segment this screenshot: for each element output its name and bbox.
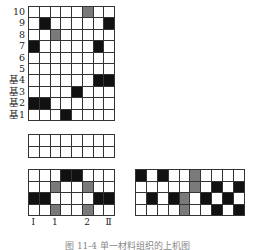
cell-empty	[94, 18, 105, 29]
cell-empty	[83, 41, 94, 52]
cell-filled-black	[104, 18, 115, 29]
cell-empty	[29, 110, 40, 121]
cell-empty	[201, 182, 212, 194]
cell-empty	[94, 53, 105, 64]
middle-grid-empty	[28, 134, 115, 158]
cell-empty	[94, 98, 105, 109]
cell-empty	[147, 205, 158, 217]
cell-empty	[104, 147, 115, 159]
cell-filled-black	[40, 193, 51, 205]
cell-empty	[40, 110, 51, 121]
cell-empty	[29, 170, 40, 182]
row-label: 基1	[0, 109, 27, 120]
cell-empty	[61, 41, 72, 52]
cell-empty	[29, 30, 40, 41]
cell-empty	[40, 170, 51, 182]
column-label: Ⅱ	[103, 216, 114, 228]
cell-empty	[158, 193, 169, 205]
cell-filled-black	[40, 18, 51, 29]
cell-empty	[72, 193, 83, 205]
cell-empty	[61, 147, 72, 159]
cell-empty	[51, 193, 62, 205]
cell-empty	[169, 170, 180, 182]
cell-filled-black	[223, 193, 234, 205]
cell-empty	[40, 41, 51, 52]
cell-empty	[190, 205, 201, 217]
cell-empty	[51, 135, 62, 147]
cell-empty	[72, 147, 83, 159]
cell-filled-black	[212, 205, 223, 217]
cell-empty	[40, 30, 51, 41]
cell-empty	[61, 182, 72, 194]
cell-filled-black	[61, 110, 72, 121]
cell-empty	[51, 110, 62, 121]
cell-empty	[94, 147, 105, 159]
cell-empty	[94, 205, 105, 217]
cell-empty	[83, 170, 94, 182]
cell-empty	[136, 205, 147, 217]
cell-empty	[94, 87, 105, 98]
cell-filled-grey	[190, 182, 201, 194]
cell-filled-black	[104, 193, 115, 205]
cell-empty	[51, 147, 62, 159]
cell-empty	[83, 110, 94, 121]
row-label: 基3	[0, 86, 27, 97]
row-labels: 1098765基4基3基2基1	[0, 6, 27, 120]
cell-empty	[212, 170, 223, 182]
cell-empty	[29, 53, 40, 64]
cell-empty	[83, 147, 94, 159]
cell-empty	[83, 75, 94, 86]
cell-empty	[40, 53, 51, 64]
cell-filled-grey	[83, 7, 94, 18]
cell-empty	[180, 170, 191, 182]
cell-empty	[29, 75, 40, 86]
cell-empty	[61, 7, 72, 18]
cell-empty	[72, 41, 83, 52]
cell-empty	[61, 135, 72, 147]
column-label: Ⅰ	[28, 216, 39, 228]
cell-filled-grey	[190, 170, 201, 182]
column-label: 1	[50, 216, 61, 228]
cell-empty	[94, 110, 105, 121]
cell-empty	[83, 98, 94, 109]
cell-filled-black	[94, 75, 105, 86]
cell-filled-grey	[83, 205, 94, 217]
cell-empty	[61, 87, 72, 98]
cell-empty	[51, 7, 62, 18]
cell-empty	[180, 182, 191, 194]
cell-empty	[51, 170, 62, 182]
cell-empty	[223, 170, 234, 182]
cell-empty	[51, 64, 62, 75]
cell-empty	[234, 170, 245, 182]
cell-empty	[40, 147, 51, 159]
cell-empty	[61, 205, 72, 217]
row-label: 基4	[0, 74, 27, 85]
cell-empty	[158, 182, 169, 194]
cell-empty	[169, 205, 180, 217]
cell-empty	[40, 87, 51, 98]
cell-empty	[29, 135, 40, 147]
cell-empty	[104, 205, 115, 217]
cell-filled-black	[169, 193, 180, 205]
cell-empty	[72, 64, 83, 75]
cell-empty	[51, 75, 62, 86]
column-label	[71, 216, 82, 228]
cell-empty	[104, 98, 115, 109]
cell-empty	[72, 205, 83, 217]
cell-empty	[212, 193, 223, 205]
cell-empty	[61, 18, 72, 29]
cell-empty	[83, 30, 94, 41]
cell-empty	[104, 110, 115, 121]
cell-empty	[61, 98, 72, 109]
cell-empty	[83, 135, 94, 147]
row-label: 5	[0, 63, 27, 74]
row-label: 7	[0, 40, 27, 51]
cell-empty	[29, 7, 40, 18]
cell-empty	[61, 30, 72, 41]
bottom-left-grid-lifting-plan	[28, 169, 115, 216]
cell-empty	[94, 7, 105, 18]
bottom-right-grid-weave	[135, 169, 245, 216]
cell-empty	[40, 7, 51, 18]
cell-empty	[94, 135, 105, 147]
cell-empty	[201, 170, 212, 182]
